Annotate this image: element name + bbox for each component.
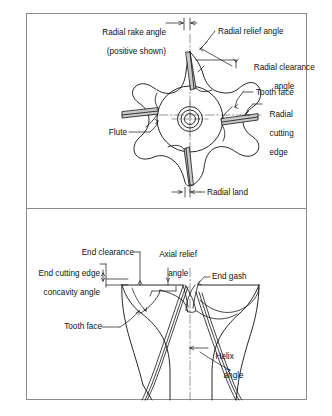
- label-radial-rake-angle-line2: (positive shown): [107, 47, 166, 56]
- leader-tooth-face-bottom: [102, 311, 139, 327]
- label-radial-relief-angle: Radial relief angle: [218, 27, 284, 37]
- label-radial-rake-angle: Radial rake angle (positive shown): [56, 18, 166, 56]
- leader-radial-clearance: [196, 48, 239, 72]
- label-helix-angle: Helix angle: [211, 342, 244, 380]
- label-end-cutting-edge-concavity-angle: End cutting edge concavity angle: [16, 259, 100, 297]
- leader-radial-rake: [166, 18, 197, 30]
- label-radial-cutting-line1: Radial: [270, 110, 293, 119]
- label-radial-land: Radial land: [207, 188, 248, 198]
- leader-end-clearance: [132, 252, 147, 311]
- label-end-gash: End gash: [212, 272, 247, 282]
- tooth-land-bottom: [184, 147, 193, 185]
- label-end-cutting-line1: End cutting edge: [39, 269, 100, 278]
- leader-end-cutting-edge-concavity: [100, 264, 128, 287]
- leader-radial-relief: [200, 31, 215, 51]
- label-helix-line2: angle: [224, 371, 244, 381]
- label-tooth-face-top: Tooth face: [256, 88, 294, 98]
- tooth-land-left: [122, 108, 158, 118]
- label-end-clearance: End clearance: [64, 248, 134, 258]
- leader-radial-land: [172, 187, 205, 197]
- label-radial-rake-angle-line1: Radial rake angle: [102, 28, 166, 37]
- leader-tooth-face: [235, 92, 253, 109]
- label-axial-relief-angle: Axial relief angle: [146, 240, 206, 278]
- label-helix-line1: Helix: [216, 352, 234, 361]
- label-radial-cutting-line2: cutting: [270, 129, 294, 138]
- label-tooth-face-bottom: Tooth face: [52, 322, 102, 332]
- tooth-land-right: [221, 114, 258, 125]
- label-radial-cutting-edge: Radial cutting edge: [265, 100, 294, 158]
- label-radial-cutting-line3: edge: [270, 148, 288, 157]
- label-radial-clearance-angle: Radial clearance angle: [238, 53, 326, 91]
- label-flute: Flute: [99, 128, 127, 138]
- label-axial-relief-line1: Axial relief: [159, 250, 197, 259]
- label-radial-clearance-line1: Radial clearance: [254, 63, 315, 72]
- leader-flute: [129, 120, 158, 133]
- label-axial-relief-line2: angle: [168, 269, 188, 278]
- label-end-cutting-line2: concavity angle: [44, 288, 100, 297]
